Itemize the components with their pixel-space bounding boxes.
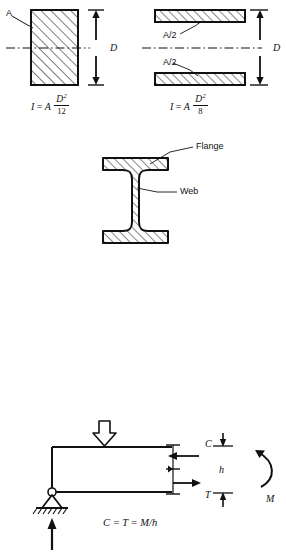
i-beam-outline	[103, 158, 168, 243]
moment-label: M	[266, 494, 274, 504]
compression-label: C	[205, 439, 212, 449]
two-flange-figure	[140, 0, 286, 120]
area-label-left: A	[6, 9, 12, 18]
web-leader-line	[137, 188, 177, 192]
tension-label: T	[205, 490, 211, 500]
formula-equals-right: =	[176, 101, 182, 112]
upper-flange-bar	[155, 10, 245, 22]
depth-label-right: D	[273, 43, 280, 53]
rectangle-body	[31, 10, 78, 85]
area-leader-line	[12, 16, 33, 28]
flange-label: Flange	[196, 142, 224, 151]
web-label: Web	[180, 187, 198, 196]
upper-area-label: A/2	[163, 31, 177, 40]
formula-coefficient: A	[45, 101, 51, 112]
depth-label-h: h	[219, 465, 224, 475]
formula-lhs-right: I	[170, 101, 173, 112]
formula-numerator-right: D2	[193, 92, 207, 105]
formula-coefficient-right: A	[184, 101, 190, 112]
lower-flange-bar	[155, 73, 245, 85]
formula-rectangle-inertia: I = A D2 12	[31, 92, 69, 116]
depth-dimension-arrows	[88, 10, 104, 85]
depth-label-left: D	[110, 43, 117, 53]
formula-numerator: D2	[54, 92, 68, 105]
moment-arrow	[255, 450, 272, 487]
formula-couple: C = T = M/h	[103, 518, 157, 529]
beam-outline	[52, 447, 172, 492]
formula-fraction: D2 12	[54, 92, 68, 116]
formula-flange-inertia: I = A D2 8	[170, 92, 208, 116]
applied-load-arrow	[93, 421, 116, 446]
solid-rectangle-figure	[0, 0, 146, 120]
formula-denominator-right: 8	[193, 105, 207, 116]
section-cut-marks	[166, 445, 180, 494]
formula-fraction-right: D2 8	[193, 92, 207, 116]
lower-area-label: A/2	[163, 58, 177, 67]
beam-couple-figure	[0, 415, 286, 554]
reaction-force-arrow	[48, 518, 57, 550]
tension-force-arrow	[173, 479, 201, 487]
formula-lhs: I	[31, 101, 34, 112]
i-beam-figure	[95, 140, 225, 260]
formula-denominator: 12	[54, 105, 68, 116]
formula-equals: =	[37, 101, 43, 112]
